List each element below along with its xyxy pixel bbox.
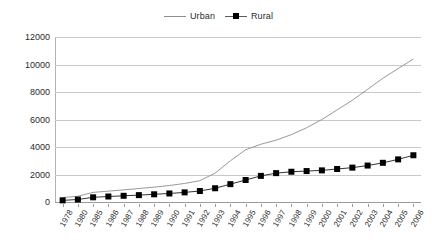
x-axis-tick-label: 1990 [165, 209, 181, 228]
x-axis-tick-label: 1986 [104, 209, 120, 228]
x-axis-tick-mark [230, 204, 231, 207]
series-marker-rural [273, 170, 279, 176]
x-axis-tick-mark [352, 204, 353, 207]
y-axis-tick-label: 8000 [4, 88, 50, 97]
x-axis-tick-mark [337, 204, 338, 207]
x-axis-tick-label: 2001 [333, 209, 349, 228]
legend-label-rural: Rural [251, 12, 273, 21]
series-marker-rural [227, 181, 233, 187]
series-marker-rural [136, 192, 142, 198]
x-axis-tick-mark [383, 204, 384, 207]
x-axis-tick-mark [215, 204, 216, 207]
x-axis-tick-mark [276, 204, 277, 207]
x-axis-tick-mark [307, 204, 308, 207]
series-marker-rural [121, 193, 127, 199]
x-axis-tick-label: 1987 [120, 209, 136, 228]
x-axis-tick-label: 1988 [135, 209, 151, 228]
legend-line-swatch-icon [164, 16, 186, 17]
series-marker-rural [410, 152, 416, 158]
y-axis-labels: 020004000600080001000012000 [0, 37, 50, 203]
series-marker-rural [349, 165, 355, 171]
x-axis-tick-label: 1999 [303, 209, 319, 228]
x-axis-tick-label: 2000 [318, 209, 334, 228]
y-axis-tick-label: 0 [4, 198, 50, 207]
y-axis-tick-label: 10000 [4, 61, 50, 70]
series-marker-rural [319, 167, 325, 173]
series-marker-rural [212, 185, 218, 191]
series-marker-rural [60, 197, 66, 203]
x-axis-tick-mark [413, 204, 414, 207]
x-axis-tick-label: 1998 [287, 209, 303, 228]
data-series-layer [55, 37, 421, 202]
chart-container: Urban Rural 020004000600080001000012000 … [0, 0, 437, 247]
series-line-rural [63, 155, 414, 200]
x-axis-tick-label: 1997 [272, 209, 288, 228]
series-marker-rural [288, 169, 294, 175]
series-marker-rural [90, 194, 96, 200]
x-axis-tick-mark [291, 204, 292, 207]
x-axis-tick-mark [398, 204, 399, 207]
x-axis-tick-label: 2002 [348, 209, 364, 228]
series-marker-rural [182, 189, 188, 195]
x-axis-tick-label: 1991 [181, 209, 197, 228]
x-axis-tick-label: 1985 [89, 209, 105, 228]
series-marker-rural [105, 194, 111, 200]
x-axis-tick-mark [108, 204, 109, 207]
x-axis-tick-mark [200, 204, 201, 207]
y-axis-tick-label: 4000 [4, 143, 50, 152]
x-axis-tick-mark [93, 204, 94, 207]
x-axis-tick-label: 2003 [364, 209, 380, 228]
legend-label-urban: Urban [190, 12, 215, 21]
legend-entry-rural: Rural [225, 12, 273, 21]
x-axis-tick-label: 2004 [379, 209, 395, 228]
x-axis-tick-mark [63, 204, 64, 207]
x-axis-tick-label: 2005 [394, 209, 410, 228]
series-marker-rural [395, 156, 401, 162]
series-line-urban [63, 59, 414, 198]
x-axis-tick-mark [185, 204, 186, 207]
plot-area [55, 37, 421, 202]
y-axis-tick-label: 2000 [4, 171, 50, 180]
x-axis-tick-label: 1978 [59, 209, 75, 228]
x-axis-tick-mark [139, 204, 140, 207]
x-axis-tick-label: 1980 [74, 209, 90, 228]
series-marker-rural [258, 173, 264, 179]
x-axis-tick-label: 1995 [242, 209, 258, 228]
x-axis-tick-label: 1993 [211, 209, 227, 228]
x-axis-tick-mark [261, 204, 262, 207]
x-axis-tick-mark [78, 204, 79, 207]
series-marker-rural [304, 168, 310, 174]
x-axis-tick-mark [246, 204, 247, 207]
x-axis-tick-mark [368, 204, 369, 207]
series-marker-rural [151, 191, 157, 197]
x-axis-tick-label: 1996 [257, 209, 273, 228]
legend-square-marker-icon [225, 13, 247, 19]
x-axis-tick-mark [322, 204, 323, 207]
y-axis-tick-label: 12000 [4, 33, 50, 42]
series-marker-rural [197, 188, 203, 194]
x-axis-tick-label: 1992 [196, 209, 212, 228]
series-marker-rural [243, 177, 249, 183]
chart-legend: Urban Rural [0, 8, 437, 24]
x-axis-tick-label: 2006 [409, 209, 425, 228]
series-marker-rural [75, 197, 81, 203]
x-axis-tick-mark [124, 204, 125, 207]
legend-entry-urban: Urban [164, 12, 215, 21]
series-marker-rural [380, 160, 386, 166]
x-axis-labels: 1978198019851986198719881989199019911992… [55, 204, 421, 247]
x-axis-tick-mark [154, 204, 155, 207]
y-axis-tick-label: 6000 [4, 116, 50, 125]
x-axis-tick-mark [169, 204, 170, 207]
series-marker-rural [166, 190, 172, 196]
x-axis-tick-label: 1994 [226, 209, 242, 228]
x-axis-tick-label: 1989 [150, 209, 166, 228]
series-marker-rural [334, 166, 340, 172]
x-axis-line [55, 202, 421, 203]
series-marker-rural [365, 163, 371, 169]
